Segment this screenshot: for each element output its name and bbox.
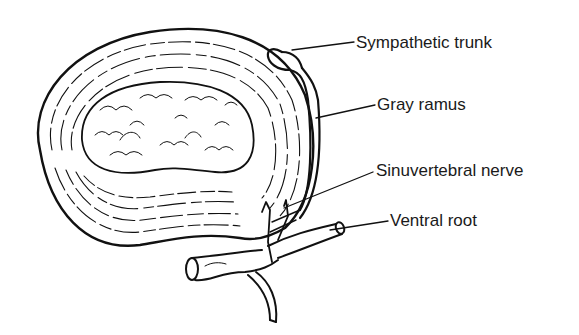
label-ventral-root: Ventral root: [390, 212, 477, 229]
annulus-outer-outline: [38, 29, 313, 246]
label-gray-ramus: Gray ramus: [377, 96, 466, 113]
nucleus-texture: [95, 95, 237, 156]
annulus-lamellae: [50, 42, 299, 233]
label-sinuvertebral-nerve: Sinuvertebral nerve: [376, 162, 523, 179]
leader-lines: [284, 42, 388, 230]
label-sympathetic-trunk: Sympathetic trunk: [356, 34, 492, 51]
disc-innervation-diagram: Sympathetic trunk Gray ramus Sinuvertebr…: [0, 0, 579, 335]
spinal-nerve: [192, 250, 262, 258]
ventral-root: [268, 224, 336, 246]
